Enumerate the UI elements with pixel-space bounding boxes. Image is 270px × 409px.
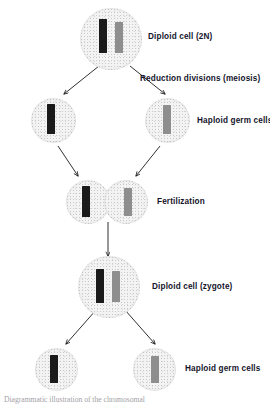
chromosome-dark-maternal	[82, 186, 90, 217]
label-reduction-divisions: Reduction divisions (meiosis)	[140, 75, 260, 83]
fertilization-cell-right-lobe[interactable]	[104, 180, 148, 224]
chromosome-dark-maternal	[96, 269, 104, 303]
label-haploid-germ-cells: Haploid germ cells	[185, 365, 261, 373]
chromosome-light-paternal	[112, 271, 120, 302]
label-haploid-germ-cells-n: Haploid germ cells (N)	[197, 117, 270, 125]
chromosome-dark-maternal	[50, 355, 58, 383]
zygote-diploid-cell[interactable]	[78, 256, 140, 318]
label-diploid-2n: Diploid cell (2N)	[148, 33, 212, 41]
haploid-germ-cell-left[interactable]	[31, 98, 76, 143]
arrow-meiosis-left	[64, 66, 99, 94]
label-diploid-zygote: Diploid cell (zygote)	[152, 283, 232, 291]
label-fertilization: Fertilization	[157, 198, 205, 206]
chromosome-dark-maternal	[47, 104, 55, 134]
chromosome-light-paternal	[115, 22, 123, 53]
offspring-germ-cell-left[interactable]	[35, 348, 78, 391]
chromosome-light-paternal	[163, 105, 171, 134]
arrow-offspring-right	[125, 310, 155, 344]
figure-canvas: Diploid cell (2N) Reduction divisions (m…	[0, 0, 270, 409]
arrow-offspring-left	[66, 310, 96, 344]
chromosome-light-paternal	[151, 356, 159, 383]
chromosome-light-paternal	[124, 188, 132, 216]
arrow-fertilize-right	[136, 146, 160, 176]
offspring-germ-cell-right[interactable]	[133, 348, 176, 391]
parent-diploid-cell[interactable]	[80, 8, 142, 70]
haploid-germ-cell-right[interactable]	[145, 98, 190, 143]
arrow-fertilize-left	[58, 146, 78, 176]
chromosome-dark-maternal	[99, 19, 107, 53]
figure-caption: Diagrammatic illustration of the chromos…	[4, 396, 266, 404]
